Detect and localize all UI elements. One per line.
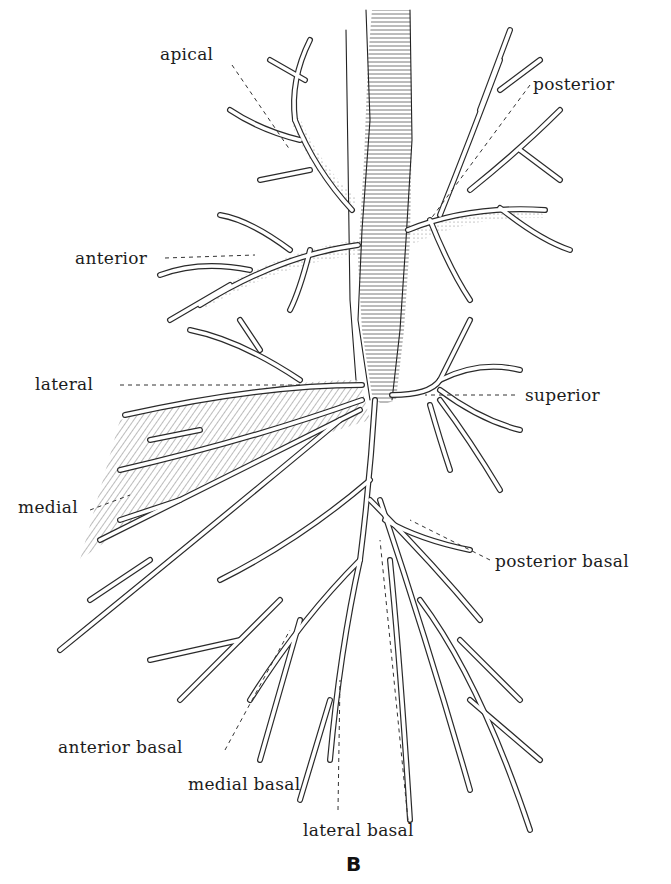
- label-medial-basal: medial basal: [188, 774, 300, 794]
- label-lateral: lateral: [35, 374, 93, 394]
- label-posterior: posterior: [533, 74, 614, 94]
- label-superior: superior: [525, 385, 600, 405]
- apical-segment-branches: [230, 40, 358, 210]
- bronchial-tree-diagram: apical posterior anterior lateral superi…: [0, 0, 671, 884]
- leader-anterior: [165, 255, 255, 258]
- posterior-segment-branches: [408, 30, 570, 300]
- label-apical: apical: [160, 44, 213, 64]
- label-medial: medial: [18, 497, 78, 517]
- label-anterior-basal: anterior basal: [58, 737, 183, 757]
- main-bronchus: [346, 10, 412, 405]
- superior-segment-branches: [392, 320, 520, 490]
- label-posterior-basal: posterior basal: [495, 551, 629, 571]
- label-anterior: anterior: [75, 248, 147, 268]
- panel-letter: B: [346, 852, 361, 876]
- label-lateral-basal: lateral basal: [303, 820, 414, 840]
- anterior-segment-branches: [160, 215, 360, 320]
